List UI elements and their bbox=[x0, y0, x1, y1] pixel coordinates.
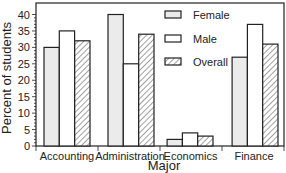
bar-overall-finance bbox=[263, 44, 278, 146]
bar-female-economics bbox=[167, 139, 182, 146]
y-tick-label: 10 bbox=[18, 107, 30, 119]
legend-label-male: Male bbox=[193, 33, 217, 45]
bar-male-economics bbox=[182, 133, 197, 146]
bar-female-administration bbox=[108, 15, 123, 147]
bar-overall-economics bbox=[198, 136, 213, 146]
bar-female-finance bbox=[232, 57, 247, 146]
bar-female-accounting bbox=[44, 47, 59, 146]
y-tick-label: 0 bbox=[24, 140, 30, 152]
legend-label-overall: Overall bbox=[193, 56, 228, 68]
x-tick-label-accounting: Accounting bbox=[40, 150, 94, 162]
bar-overall-accounting bbox=[75, 41, 90, 146]
legend-swatch-overall bbox=[165, 58, 181, 65]
y-tick-label: 15 bbox=[18, 91, 30, 103]
bar-male-administration bbox=[123, 64, 138, 146]
y-tick-label: 5 bbox=[24, 124, 30, 136]
legend-label-female: Female bbox=[193, 9, 230, 21]
y-tick-label: 30 bbox=[18, 41, 30, 53]
bar-male-accounting bbox=[59, 31, 74, 146]
y-axis: 0510152025303540 bbox=[18, 9, 36, 152]
x-tick-label-finance: Finance bbox=[234, 150, 273, 162]
y-tick-label: 40 bbox=[18, 9, 30, 21]
legend-swatch-male bbox=[165, 35, 181, 42]
y-tick-label: 25 bbox=[18, 58, 30, 70]
y-axis-title: Percent of students bbox=[0, 21, 14, 134]
y-tick-label: 35 bbox=[18, 25, 30, 37]
bar-chart: 0510152025303540 AccountingAdministratio… bbox=[0, 0, 286, 173]
legend-swatch-female bbox=[165, 11, 181, 18]
bar-overall-administration bbox=[139, 34, 154, 146]
bar-male-finance bbox=[247, 24, 262, 146]
y-tick-label: 20 bbox=[18, 74, 30, 86]
x-axis-title: Major bbox=[148, 158, 181, 173]
